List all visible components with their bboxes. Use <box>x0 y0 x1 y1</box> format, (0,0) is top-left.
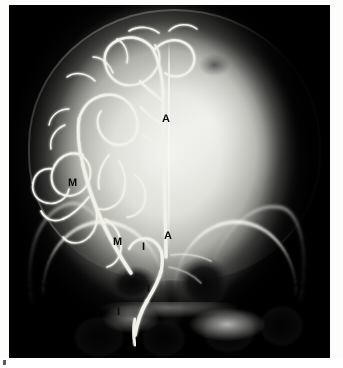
caption-marker <box>3 360 6 365</box>
annotation-i-internal-carotid-3: I <box>117 307 120 318</box>
angiogram-radiograph-image <box>9 5 330 358</box>
annotation-i-internal-carotid-1: I <box>142 242 145 253</box>
cerebral-vessel-tree <box>9 5 330 358</box>
annotation-a-anterior-cerebral-upper: A <box>162 114 170 125</box>
annotation-a-anterior-cerebral-lower: A <box>164 231 172 242</box>
figure-root: A A M M I I I I <box>0 0 343 368</box>
annotation-i-internal-carotid-4: I <box>119 337 122 348</box>
caption-strip <box>0 358 343 368</box>
annotation-m-middle-cerebral-upper: M <box>68 178 77 189</box>
annotation-m-middle-cerebral-lower: M <box>113 237 122 248</box>
annotation-i-internal-carotid-2: I <box>147 284 150 295</box>
